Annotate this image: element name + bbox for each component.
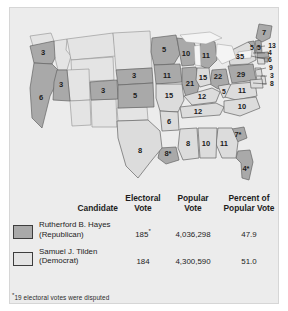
label-california: 6: [39, 93, 43, 102]
label-wisconsin: 10: [182, 49, 190, 58]
label-colorado: 3: [101, 86, 105, 95]
state-arizona-territory: [70, 100, 91, 126]
label-new-hampshire: 5: [257, 44, 261, 51]
header-electoral-vote: Electoral Vote: [120, 194, 166, 216]
label-kansas: 5: [133, 91, 137, 100]
state-indian-territory: [117, 107, 148, 121]
state-new-mexico-territory: [91, 99, 117, 127]
legend-swatch-democrat: [13, 252, 33, 266]
header-electoral-line2: Vote: [120, 204, 166, 214]
electoral-vote-republican: 185*: [120, 216, 166, 243]
label-michigan: 11: [202, 51, 210, 60]
label-west-virginia: 5: [222, 88, 226, 95]
great-lake-michigan: [194, 45, 201, 66]
label-missouri: 15: [165, 91, 173, 100]
results-table: Candidate Electoral Vote Popular Vote Pe…: [10, 194, 278, 270]
electoral-vote-asterisk: *: [148, 228, 150, 234]
header-percent-line2: Popular Vote: [220, 204, 278, 214]
label-oregon: 3: [41, 48, 45, 57]
candidate-name-line2: (Republican): [39, 230, 120, 239]
label-alabama: 10: [202, 139, 210, 148]
label-tennessee: 12: [194, 107, 202, 116]
label-minnesota: 5: [162, 45, 166, 54]
state-dakota-territory: [113, 31, 152, 70]
popular-vote-republican: 4,036,298: [166, 216, 220, 243]
label-south-carolina: 7*: [234, 130, 241, 139]
label-mississippi: 8: [186, 139, 190, 148]
table-row: Rutherford B. Hayes (Republican) 185* 4,…: [10, 216, 278, 243]
header-popular-line2: Vote: [166, 204, 220, 214]
map-svg: 3 6 3 3 3 5 5 11 10 11 21 15 22 29 35 5 …: [10, 8, 278, 198]
header-percent-popular-vote: Percent of Popular Vote: [220, 194, 278, 216]
label-new-york: 35: [236, 52, 244, 61]
label-new-jersey: 9: [269, 64, 273, 71]
label-maine: 7: [262, 28, 266, 37]
label-ohio: 22: [214, 72, 222, 81]
candidate-name-line2: (Democrat): [39, 256, 120, 265]
popular-vote-democrat: 4,300,590: [166, 243, 220, 270]
label-iowa: 11: [163, 71, 171, 80]
label-virginia: 11: [238, 86, 246, 95]
label-maryland: 8: [270, 80, 274, 87]
label-rhode-island: 4: [268, 49, 272, 56]
candidate-name-democrat: Samuel J. Tilden (Democrat): [36, 243, 120, 270]
header-candidate: Candidate: [36, 194, 120, 216]
electoral-vote-value: 184: [136, 257, 149, 266]
label-texas: 8: [138, 146, 142, 155]
label-florida: 4*: [242, 164, 249, 173]
footnote: *19 electoral votes were disputed: [12, 292, 262, 301]
candidate-name-line1: Rutherford B. Hayes: [39, 220, 120, 229]
legend-swatch-democrat-cell: [10, 243, 36, 270]
state-montana-territory: [67, 33, 116, 60]
electoral-vote-value: 185: [135, 230, 148, 239]
label-nevada: 3: [59, 80, 63, 89]
screenshot-root: 3 6 3 3 3 5 5 11 10 11 21 15 22 29 35 5 …: [0, 0, 288, 311]
label-arkansas: 6: [167, 117, 171, 126]
label-louisiana: 8*: [164, 149, 171, 158]
label-north-carolina: 10: [238, 102, 246, 111]
label-indiana: 15: [199, 73, 207, 82]
footnote-text: 19 electoral votes were disputed: [14, 294, 109, 301]
label-vermont: 5: [250, 44, 254, 51]
label-nebraska: 3: [132, 71, 136, 80]
election-map-figure: 3 6 3 3 3 5 5 11 10 11 21 15 22 29 35 5 …: [9, 7, 279, 304]
label-kentucky: 12: [198, 92, 206, 101]
candidate-name-republican: Rutherford B. Hayes (Republican): [36, 216, 120, 243]
table-body: Rutherford B. Hayes (Republican) 185* 4,…: [10, 216, 278, 270]
label-delaware: 3: [270, 72, 274, 79]
table-header-row: Candidate Electoral Vote Popular Vote Pe…: [10, 194, 278, 216]
label-pennsylvania: 29: [237, 70, 245, 79]
label-georgia: 11: [220, 139, 228, 148]
label-massachusetts: 13: [268, 42, 276, 49]
legend-swatch-republican: [13, 225, 33, 239]
legend-swatch-republican-cell: [10, 216, 36, 243]
header-swatch-spacer: [10, 194, 36, 216]
electoral-vote-democrat: 184: [120, 243, 166, 270]
great-lake-superior: [180, 32, 222, 44]
table-row: Samuel J. Tilden (Democrat) 184 4,300,59…: [10, 243, 278, 270]
percent-republican: 47.9: [220, 216, 278, 243]
label-illinois: 21: [186, 79, 194, 88]
candidate-name-line1: Samuel J. Tilden: [39, 247, 120, 256]
percent-democrat: 51.0: [220, 243, 278, 270]
results-legend-table: Candidate Electoral Vote Popular Vote Pe…: [10, 194, 278, 304]
state-utah-territory: [67, 69, 90, 101]
label-connecticut: 6: [268, 56, 272, 63]
table-head: Candidate Electoral Vote Popular Vote Pe…: [10, 194, 278, 216]
header-popular-vote: Popular Vote: [166, 194, 220, 216]
us-electoral-map: 3 6 3 3 3 5 5 11 10 11 21 15 22 29 35 5 …: [10, 8, 278, 198]
